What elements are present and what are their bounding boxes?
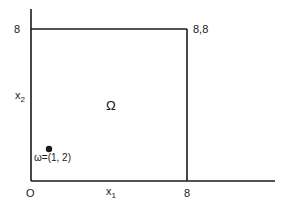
diagram-canvas xyxy=(0,0,291,211)
y-axis-label: x2 xyxy=(15,90,25,102)
origin-label: O xyxy=(26,188,35,199)
point-omega-label: ω=(1, 2) xyxy=(34,153,71,163)
domain-diagram: 8 x2 Ω 8,8 ω=(1, 2) O x1 8 xyxy=(0,0,291,211)
corner-label-8-8: 8,8 xyxy=(193,24,208,35)
y-axis-label-base: x xyxy=(15,89,21,101)
x-axis-label: x1 xyxy=(106,186,116,198)
x-axis-label-base: x xyxy=(106,185,112,197)
x-axis-label-subscript: 1 xyxy=(112,191,116,200)
y-axis-label-subscript: 2 xyxy=(21,95,25,104)
region-omega-label: Ω xyxy=(106,99,116,112)
x-tick-label-8: 8 xyxy=(184,188,190,199)
y-tick-label-8: 8 xyxy=(14,24,20,35)
